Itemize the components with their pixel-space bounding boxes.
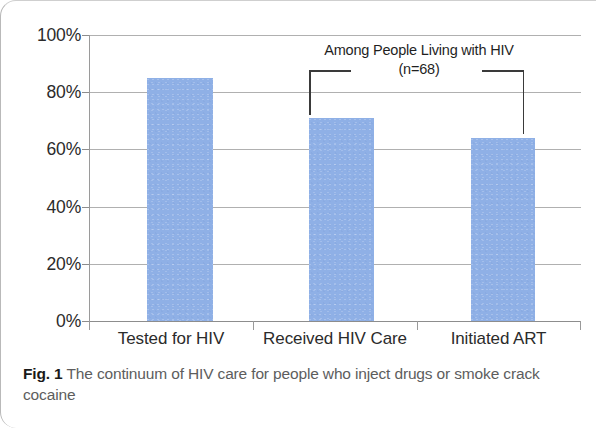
- y-tickmark-40: [82, 207, 89, 208]
- x-axis-label-tested-for-hiv: Tested for HIV: [89, 329, 253, 349]
- y-axis-tick-label: 100%: [19, 25, 81, 46]
- y-axis-tick-labels: 100% 80% 60% 40% 20% 0%: [19, 1, 81, 357]
- figure-caption: Fig. 1 The continuum of HIV care for peo…: [23, 363, 575, 405]
- x-axis-label-initiated-art: Initiated ART: [417, 329, 580, 349]
- figure-caption-text: The continuum of HIV care for people who…: [23, 365, 540, 403]
- x-axis-category-labels: Tested for HIV Received HIV Care Initiat…: [89, 329, 581, 357]
- plot-area: [89, 35, 581, 321]
- x-axis-line: [89, 321, 581, 322]
- figure-card: 100% 80% 60% 40% 20% 0%: [0, 0, 596, 428]
- y-axis-tick-label: 60%: [19, 139, 81, 160]
- bar-initiated-art[interactable]: [471, 138, 535, 321]
- y-tickmark-0: [82, 321, 89, 322]
- y-axis-line: [89, 35, 90, 321]
- x-axis-label-received-hiv-care: Received HIV Care: [253, 329, 417, 349]
- y-axis-tick-label: 80%: [19, 82, 81, 103]
- bar-received-hiv-care[interactable]: [309, 118, 374, 321]
- bar-chart: 100% 80% 60% 40% 20% 0%: [1, 1, 596, 357]
- figure-caption-label: Fig. 1: [23, 365, 63, 382]
- y-axis-tick-label: 0%: [19, 311, 81, 332]
- y-tickmark-60: [82, 149, 89, 150]
- bar-tested-for-hiv[interactable]: [147, 78, 213, 321]
- y-axis-tick-label: 20%: [19, 253, 81, 274]
- gridline-100: [89, 35, 581, 36]
- y-tickmark-80: [82, 92, 89, 93]
- y-tickmark-100: [82, 35, 89, 36]
- y-axis-tick-label: 40%: [19, 196, 81, 217]
- y-tickmark-20: [82, 264, 89, 265]
